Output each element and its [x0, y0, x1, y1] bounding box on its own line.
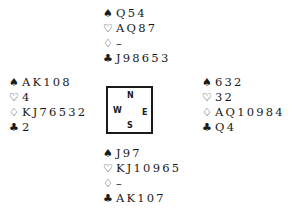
- compass-west: W: [113, 106, 122, 115]
- diamond-icon: ♢: [103, 176, 116, 191]
- north-spades: Q54: [116, 6, 147, 20]
- heart-icon: ♡: [202, 90, 215, 105]
- heart-icon: ♡: [103, 21, 116, 36]
- spade-icon: ♠: [202, 75, 215, 90]
- heart-icon: ♡: [103, 161, 116, 176]
- south-hand: ♠J97 ♡KJ10965 ♢– ♣AK107: [103, 146, 181, 206]
- west-hearts: 4: [22, 90, 32, 104]
- east-diamonds: AQ10984: [215, 105, 285, 119]
- west-spades: AK108: [22, 75, 72, 89]
- south-clubs-row: ♣AK107: [103, 191, 181, 206]
- south-spades: J97: [116, 146, 142, 160]
- south-diamonds-row: ♢–: [103, 176, 181, 191]
- east-diamonds-row: ♢AQ10984: [202, 105, 285, 120]
- diamond-icon: ♢: [103, 36, 116, 51]
- spade-icon: ♠: [103, 146, 116, 161]
- east-hand: ♠632 ♡32 ♢AQ10984 ♣Q4: [202, 75, 285, 135]
- west-clubs: 2: [22, 120, 32, 134]
- south-hearts-row: ♡KJ10965: [103, 161, 181, 176]
- south-diamonds: –: [116, 176, 124, 190]
- spade-icon: ♠: [9, 75, 22, 90]
- north-clubs: J98653: [116, 51, 170, 65]
- west-hand: ♠AK108 ♡4 ♢KJ76532 ♣2: [9, 75, 87, 135]
- heart-icon: ♡: [9, 90, 22, 105]
- west-diamonds: KJ76532: [22, 105, 87, 119]
- south-spades-row: ♠J97: [103, 146, 181, 161]
- north-spades-row: ♠Q54: [103, 6, 170, 21]
- diamond-icon: ♢: [202, 105, 215, 120]
- club-icon: ♣: [202, 120, 215, 135]
- compass-north: N: [127, 91, 134, 100]
- west-hearts-row: ♡4: [9, 90, 87, 105]
- south-clubs: AK107: [116, 191, 166, 205]
- north-diamonds-row: ♢–: [103, 36, 170, 51]
- west-clubs-row: ♣2: [9, 120, 87, 135]
- east-spades: 632: [215, 75, 244, 89]
- east-clubs: Q4: [215, 120, 236, 134]
- compass-box: N W E S: [106, 86, 153, 134]
- club-icon: ♣: [9, 120, 22, 135]
- north-hand: ♠Q54 ♡AQ87 ♢– ♣J98653: [103, 6, 170, 66]
- north-hearts-row: ♡AQ87: [103, 21, 170, 36]
- east-clubs-row: ♣Q4: [202, 120, 285, 135]
- north-diamonds: –: [116, 36, 124, 50]
- west-spades-row: ♠AK108: [9, 75, 87, 90]
- east-hearts-row: ♡32: [202, 90, 285, 105]
- club-icon: ♣: [103, 191, 116, 206]
- east-hearts: 32: [215, 90, 234, 104]
- spade-icon: ♠: [103, 6, 116, 21]
- west-diamonds-row: ♢KJ76532: [9, 105, 87, 120]
- club-icon: ♣: [103, 51, 116, 66]
- north-hearts: AQ87: [116, 21, 157, 35]
- compass-south: S: [127, 121, 133, 130]
- south-hearts: KJ10965: [116, 161, 181, 175]
- north-clubs-row: ♣J98653: [103, 51, 170, 66]
- compass-east: E: [142, 108, 147, 117]
- east-spades-row: ♠632: [202, 75, 285, 90]
- diamond-icon: ♢: [9, 105, 22, 120]
